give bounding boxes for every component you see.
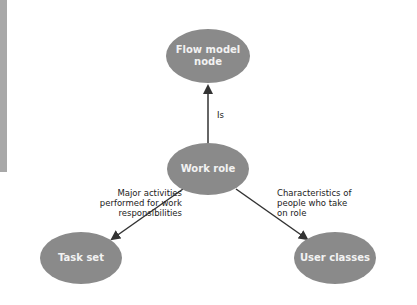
- edge-label-major-activities: Major activities performed for work resp…: [82, 188, 182, 218]
- task-set-label: Task set: [58, 252, 104, 264]
- edge-label-is: Is: [217, 110, 224, 120]
- user-classes-label: User classes: [300, 252, 370, 264]
- flow-model-node-label: Flow model node: [176, 44, 241, 68]
- work-role-label: Work role: [181, 163, 236, 175]
- edge-label-characteristics: Characteristics of people who take on ro…: [277, 188, 377, 218]
